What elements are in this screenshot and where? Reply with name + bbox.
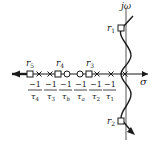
- svg-text:τ3: τ3: [47, 92, 55, 102]
- svg-text:−1: −1: [45, 80, 57, 89]
- root-label-r4: r4: [56, 58, 64, 69]
- svg-text:τb: τb: [62, 92, 70, 102]
- tick-tau4: −1 τ4: [28, 80, 42, 102]
- zero-icon: [77, 71, 83, 77]
- root-label-r3: r3: [86, 58, 94, 69]
- svg-text:τ2: τ2: [92, 92, 100, 102]
- root-marker-r2: [118, 118, 124, 124]
- tick-taub: −1 τb: [59, 80, 72, 102]
- tick-tau3: −1 τ3: [44, 80, 57, 102]
- sigma-label: σ: [140, 76, 148, 87]
- jomega-label: jω: [119, 1, 132, 11]
- root-marker-r4: [55, 71, 61, 77]
- root-locus-diagram: σ jω r1 r2 r5 r4 r3 −1 τ4 −1 τ: [0, 0, 160, 147]
- tick-tau2: −1 τ2: [89, 80, 102, 102]
- tick-labels: −1 τ4 −1 τ3 −1 τb −1 τa −1 τ2 −1 τ1: [28, 80, 116, 102]
- root-label-r1: r1: [107, 23, 115, 34]
- root-marker-r3: [86, 71, 92, 77]
- svg-text:−1: −1: [60, 80, 72, 89]
- svg-text:−1: −1: [90, 80, 102, 89]
- zero-icon: [64, 71, 70, 77]
- tick-tau1: −1 τ1: [103, 80, 116, 102]
- svg-text:−1: −1: [104, 80, 116, 89]
- svg-text:τ4: τ4: [31, 92, 39, 102]
- root-label-r5: r5: [26, 58, 34, 69]
- tick-taua: −1 τa: [74, 80, 87, 102]
- svg-text:−1: −1: [29, 80, 41, 89]
- root-label-r2: r2: [107, 116, 115, 127]
- root-marker-r1: [118, 25, 124, 31]
- svg-text:−1: −1: [75, 80, 87, 89]
- svg-text:τa: τa: [77, 92, 85, 102]
- root-marker-r5: [27, 71, 33, 77]
- svg-text:τ1: τ1: [106, 92, 114, 102]
